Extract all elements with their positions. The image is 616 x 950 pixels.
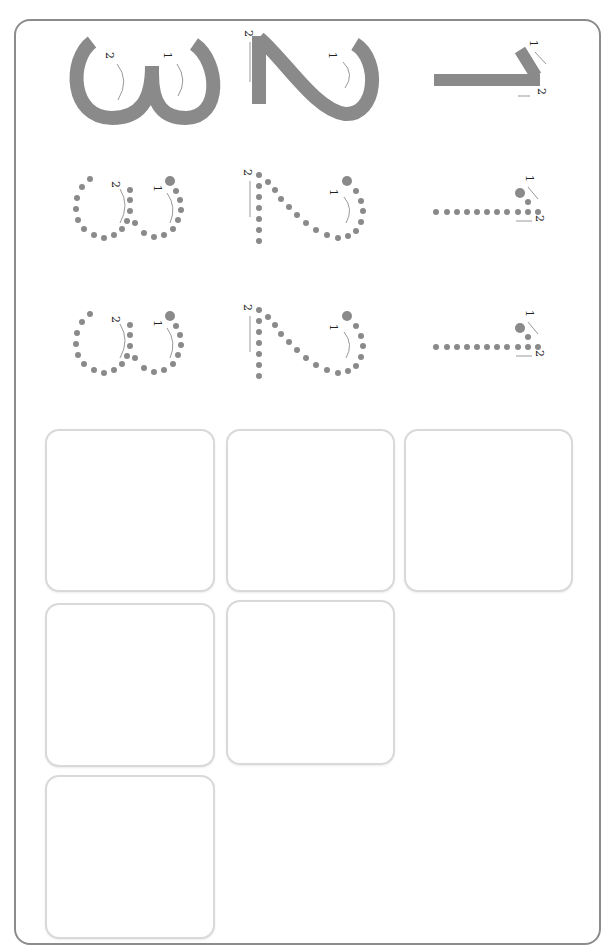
stroke-label-2: 2 — [103, 52, 116, 59]
stroke-label-1: 1 — [326, 52, 339, 59]
stroke-label-2: 2 — [109, 181, 122, 188]
stroke-label-1: 1 — [527, 40, 540, 47]
stroke-label-1: 1 — [151, 185, 164, 192]
digit-1-dotted-row2: 1 2 — [430, 165, 570, 255]
stroke-label-1: 1 — [523, 175, 536, 182]
stroke-label-2: 2 — [241, 169, 254, 176]
practice-box[interactable] — [226, 429, 395, 592]
practice-box[interactable] — [404, 429, 573, 592]
practice-box[interactable] — [45, 603, 215, 767]
stroke-label-2: 2 — [242, 30, 255, 37]
stroke-label-1: 1 — [327, 324, 340, 331]
stroke-label-1: 1 — [161, 52, 174, 59]
digit-3-dotted-row2: 2 1 — [60, 165, 220, 255]
stroke-label-1: 1 — [151, 320, 164, 327]
practice-box[interactable] — [45, 429, 215, 592]
digit-3-solid: 2 1 — [60, 30, 220, 130]
digit-2-solid: 2 1 — [245, 30, 385, 130]
stroke-label-2: 2 — [241, 304, 254, 311]
stroke-label-1: 1 — [327, 189, 340, 196]
stroke-label-2: 2 — [109, 316, 122, 323]
practice-box[interactable] — [45, 775, 215, 939]
digit-1-dotted-row3: 1 2 — [430, 300, 570, 390]
digit-2-dotted-row2: 2 1 — [240, 165, 380, 255]
digit-1-solid: 1 2 — [430, 30, 570, 130]
stroke-label-2: 2 — [533, 350, 546, 357]
stroke-label-1: 1 — [523, 310, 536, 317]
practice-box[interactable] — [226, 600, 395, 765]
stroke-label-2: 2 — [535, 88, 548, 95]
digit-3-dotted-row3: 2 1 — [60, 300, 220, 390]
stroke-label-2: 2 — [533, 215, 546, 222]
digit-2-dotted-row3: 2 1 — [240, 300, 380, 390]
